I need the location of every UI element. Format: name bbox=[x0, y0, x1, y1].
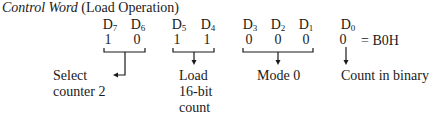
desc-select-counter: Select counter 2 bbox=[53, 68, 105, 100]
arrow-down-icon bbox=[192, 60, 197, 65]
bracket-d3-d1 bbox=[243, 48, 313, 52]
arrow-down-icon bbox=[344, 60, 349, 65]
arrow-left-icon bbox=[113, 73, 118, 78]
desc-count-binary: Count in binary bbox=[341, 68, 429, 84]
bracket-d5-d4 bbox=[173, 48, 214, 52]
connector-select-counter bbox=[117, 52, 125, 75]
desc-mode: Mode 0 bbox=[257, 68, 300, 84]
arrow-down-icon bbox=[276, 60, 281, 65]
bracket-d7-d6 bbox=[104, 48, 145, 52]
desc-load-count: Load 16-bit count bbox=[179, 68, 212, 116]
